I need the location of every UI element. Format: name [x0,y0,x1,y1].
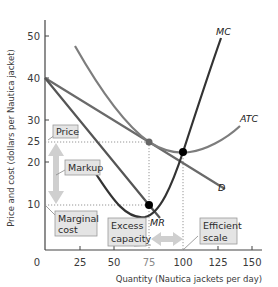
price-point-marker [146,139,153,146]
excess-capacity-arrow [151,232,183,246]
x-tick-150: 150 [242,257,261,268]
marginal-cost-label-line2: cost [58,224,78,235]
y-tick-40: 40 [27,73,40,84]
y-tick-25: 25 [27,136,40,147]
atc-label: ATC [239,113,259,124]
marginal-cost-box: Marginal cost [55,211,99,236]
y-tick-20: 20 [27,157,40,168]
economics-chart: 50 40 30 25 20 10 0 25 50 75 100 125 150… [0,0,278,287]
efficient-scale-box: Efficient scale [200,218,242,244]
y-tick-30: 30 [27,115,40,126]
mr-label: MR [150,217,165,228]
d-label: D [218,182,225,193]
mr-equals-mc-point-marker [145,201,153,209]
x-tick-25: 25 [74,257,87,268]
x-tick-75: 75 [143,257,156,268]
average-total-cost-curve [75,46,240,153]
price-box: Price [53,125,79,138]
markup-box: Markup [65,160,103,175]
mc-label: MC [216,26,231,37]
x-ticks: 0 25 50 75 100 125 150 [34,246,262,268]
marginal-revenue-curve [45,78,160,218]
min-atc-point-marker [179,148,187,156]
y-tick-50: 50 [27,31,40,42]
y-axis-title: Price and cost (dollars per Nautica jack… [6,49,16,227]
efficient-scale-label-line2: scale [203,232,228,243]
x-tick-0: 0 [34,257,40,268]
excess-capacity-label-line2: capacity [111,233,151,244]
marginal-cost-curve [96,38,221,217]
y-tick-10: 10 [27,199,40,210]
markup-arrow [48,143,64,204]
y-ticks: 50 40 30 25 20 10 [27,31,49,210]
x-axis-title: Quantity (Nautica jackets per day) [116,274,262,284]
excess-capacity-box: Excess capacity [108,218,151,246]
price-label: Price [56,126,79,137]
markup-label: Markup [68,162,103,173]
x-tick-125: 125 [208,257,227,268]
x-tick-100: 100 [173,257,192,268]
excess-capacity-label-line1: Excess [111,220,143,231]
efficient-scale-label-line1: Efficient [203,220,242,231]
marginal-cost-label-line1: Marginal [58,213,99,224]
x-tick-50: 50 [108,257,121,268]
